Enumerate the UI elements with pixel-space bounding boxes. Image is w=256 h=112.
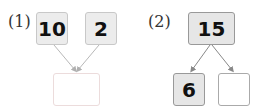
problem-1-top-left-box: 10 xyxy=(36,12,68,45)
problem-2-bottom-left-box: 6 xyxy=(173,73,205,106)
problem-2-answer-box[interactable] xyxy=(218,73,250,106)
problem-1-top-right-box: 2 xyxy=(85,12,117,45)
problem-2-top-box: 15 xyxy=(188,12,235,45)
problem-2-label: (2) xyxy=(148,12,171,31)
problem-1-label: (1) xyxy=(8,12,31,31)
problem-1-answer-box[interactable] xyxy=(53,73,100,106)
